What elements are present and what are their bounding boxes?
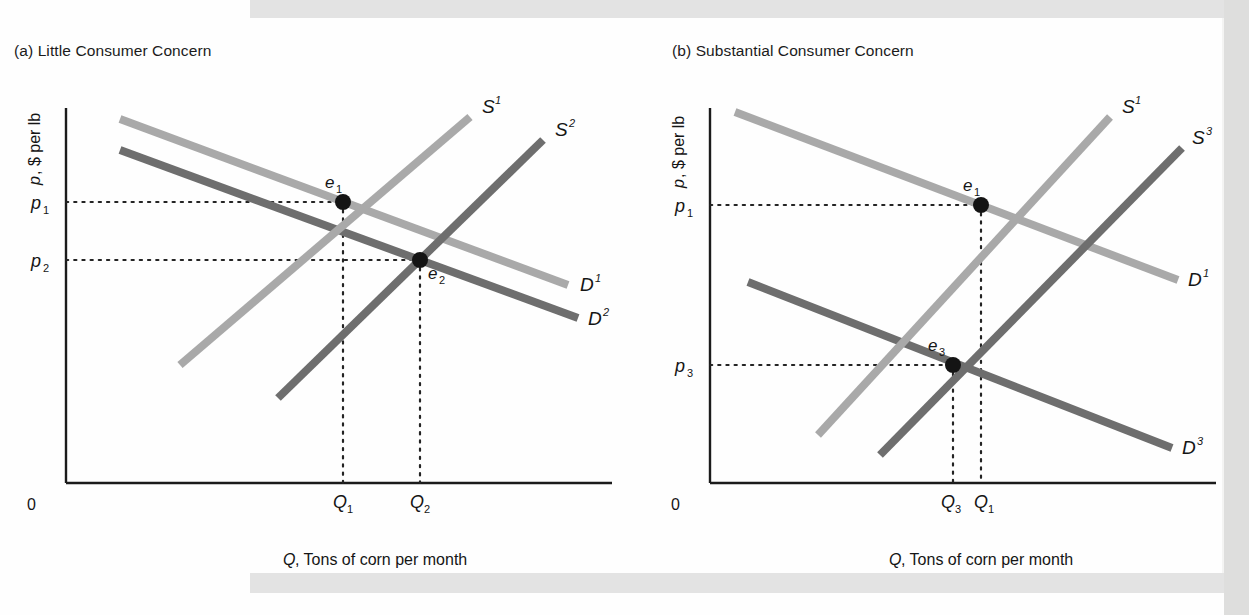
panel-b-origin-label: 0 — [671, 496, 680, 513]
panel-b-eq-label-e3: e — [928, 336, 937, 355]
panel-a-label-S1-sup: 1 — [495, 94, 501, 106]
panel-b-label-S3-sup: 3 — [1206, 125, 1213, 137]
panel-b-equilibrium-dot-e3 — [945, 357, 961, 373]
panel-a-origin-label: 0 — [27, 496, 36, 513]
panel-a-tick-q2: Q — [410, 492, 424, 512]
panel-a-equilibrium-dot-e2 — [412, 252, 428, 268]
panel-b-tick-p3: p — [674, 356, 685, 376]
panel-a-tick-p2: p — [30, 251, 41, 271]
panel-a-eq-label-e2: e — [428, 264, 437, 283]
panel-a-label-D1-sup: 1 — [595, 272, 601, 284]
panel-a-label-D2-sup: 2 — [602, 306, 609, 318]
figure-page: (a) Little Consumer Concern (b) Substant… — [0, 0, 1249, 615]
panel-a-curve-S2 — [278, 140, 543, 398]
panel-a-tick-q1-sub: 1 — [347, 503, 353, 515]
panel-b-x-axis-title-q: Q — [889, 551, 901, 568]
panel-a-label-D1: D — [580, 274, 594, 295]
panel-b-eq-label-e3-sub: 3 — [939, 346, 945, 358]
panel-a-eq-label-e2-sub: 2 — [439, 274, 445, 286]
panel-a-label-S2: S — [555, 119, 568, 140]
panel-a-tick-q1: Q — [333, 492, 347, 512]
panel-b-tick-q3: Q — [941, 492, 955, 512]
panel-a-label-D2: D — [588, 308, 602, 329]
panel-b-curve-S1 — [818, 117, 1110, 435]
panel-b-label-S1-sup: 1 — [1135, 94, 1141, 106]
panel-b-x-axis-title-rest: , Tons of corn per month — [901, 551, 1073, 568]
panel-b-tick-q1: Q — [974, 492, 988, 512]
panel-b-tick-q1-sub: 1 — [988, 503, 994, 515]
panel-b-tick-q3-sub: 3 — [955, 503, 961, 515]
figure-svg: S 1 S 2 D 1 D 2 e 1 e 2 p 1 p 2 Q 1 Q 2 … — [0, 0, 1249, 615]
panel-b-tick-p1: p — [674, 196, 685, 216]
panel-b-tick-p3-sub: 3 — [687, 367, 693, 379]
panel-b-label-S1: S — [1122, 96, 1135, 117]
panel-a-tick-p1: p — [30, 193, 41, 213]
panel-a-y-axis-title-p: p — [26, 176, 43, 186]
panel-b-label-D1-sup: 1 — [1203, 267, 1209, 279]
panel-a-label-S1: S — [482, 96, 495, 117]
panel-b-y-axis-title-rest: , $ per lb — [670, 116, 687, 178]
panel-a-tick-p2-sub: 2 — [43, 262, 49, 274]
panel-a-y-axis-title: p , $ per lb — [26, 113, 43, 186]
panel-b-eq-label-e1: e — [963, 176, 972, 195]
panel-a-x-axis-title-rest: , Tons of corn per month — [295, 551, 467, 568]
panel-a-x-axis-title-q: Q — [283, 551, 295, 568]
panel-b-eq-label-e1-sub: 1 — [974, 186, 980, 198]
panel-b-tick-p1-sub: 1 — [687, 207, 693, 219]
panel-a-label-S2-sup: 2 — [568, 117, 575, 129]
panel-a-eq-label-e1: e — [325, 173, 334, 192]
panel-b-label-D1: D — [1188, 269, 1202, 290]
panel-a-y-axis-title-rest: , $ per lb — [26, 113, 43, 175]
panel-b-label-D3: D — [1182, 437, 1196, 458]
panel-b-label-D3-sup: 3 — [1197, 435, 1204, 447]
panel-b-y-axis-title: p , $ per lb — [670, 116, 687, 189]
panel-b-equilibrium-dot-e1 — [973, 197, 989, 213]
panel-a-equilibrium-dot-e1 — [335, 194, 351, 210]
panel-b-curve-S3 — [880, 148, 1182, 455]
panel-a-plot: S 1 S 2 D 1 D 2 e 1 e 2 p 1 p 2 Q 1 Q 2 … — [26, 94, 612, 568]
panel-b-plot: S 1 S 3 D 1 D 3 e 1 e 3 p 1 p 3 Q 3 Q 1 … — [670, 94, 1216, 568]
panel-a-tick-q2-sub: 2 — [424, 503, 430, 515]
panel-b-y-axis-title-p: p — [670, 179, 687, 189]
panel-b-label-S3: S — [1192, 127, 1205, 148]
panel-a-tick-p1-sub: 1 — [43, 204, 49, 216]
panel-a-eq-label-e1-sub: 1 — [336, 183, 342, 195]
panel-b-curve-D1 — [735, 112, 1178, 280]
